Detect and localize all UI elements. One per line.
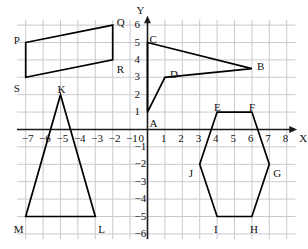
y-axis-arrowhead bbox=[144, 16, 151, 24]
y-tick-label-1: 1 bbox=[135, 106, 141, 117]
x-tick-label-2: 2 bbox=[178, 133, 184, 144]
y-tick-label-3: 3 bbox=[135, 71, 141, 82]
x-tick-label-4: 4 bbox=[213, 133, 219, 144]
vertex-label-r: R bbox=[117, 64, 124, 75]
coordinate-plane-figure: −7−6−5−4−3−2−1123456780654321−1−2−3−4−5−… bbox=[0, 0, 308, 249]
x-tick-label--7: −7 bbox=[22, 133, 34, 144]
x-tick-label-1: 1 bbox=[161, 133, 167, 144]
x-tick-label--5: −5 bbox=[57, 133, 69, 144]
x-tick-label--4: −4 bbox=[74, 133, 86, 144]
vertex-label-f: F bbox=[249, 102, 255, 113]
x-axis-name: X bbox=[299, 133, 307, 144]
y-axis-name: Y bbox=[137, 5, 145, 16]
y-tick-label-4: 4 bbox=[135, 54, 141, 65]
y-tick-label-neg3: −3 bbox=[135, 176, 147, 187]
vertex-label-e: E bbox=[214, 102, 221, 113]
vertex-label-b: B bbox=[257, 61, 264, 72]
vertex-label-q: Q bbox=[117, 17, 125, 28]
vertex-label-j: J bbox=[189, 168, 193, 179]
y-tick-label-neg1: −1 bbox=[135, 141, 147, 152]
y-tick-label-neg5: −5 bbox=[135, 211, 147, 222]
vertex-label-s: S bbox=[14, 83, 20, 94]
x-tick-label--3: −3 bbox=[91, 133, 103, 144]
y-tick-label-neg2: −2 bbox=[135, 158, 147, 169]
vertex-label-c: C bbox=[150, 34, 157, 45]
vertex-label-m: M bbox=[14, 224, 24, 235]
vertex-label-g: G bbox=[273, 168, 281, 179]
y-tick-label-2: 2 bbox=[135, 89, 141, 100]
vertex-label-k: K bbox=[58, 84, 66, 95]
vertex-label-h: H bbox=[250, 224, 258, 235]
x-tick-label-6: 6 bbox=[248, 133, 254, 144]
x-tick-label-8: 8 bbox=[283, 133, 289, 144]
x-tick-label--6: −6 bbox=[39, 133, 51, 144]
x-tick-label-7: 7 bbox=[265, 133, 271, 144]
y-tick-label-neg6: −6 bbox=[135, 228, 147, 239]
y-tick-label-5: 5 bbox=[135, 37, 141, 48]
x-tick-label-5: 5 bbox=[231, 133, 237, 144]
vertex-label-a: A bbox=[150, 118, 158, 129]
x-tick-label-3: 3 bbox=[196, 133, 202, 144]
parallelogram-pqrs bbox=[26, 25, 113, 77]
vertex-label-l: L bbox=[98, 224, 105, 235]
x-axis-arrowhead bbox=[289, 126, 297, 133]
y-tick-label-neg4: −4 bbox=[135, 193, 147, 204]
vertex-label-d: D bbox=[170, 69, 178, 80]
x-tick-label--2: −2 bbox=[109, 133, 121, 144]
vertex-label-p: P bbox=[14, 35, 20, 46]
vertex-label-i: I bbox=[214, 224, 218, 235]
y-tick-label-6: 6 bbox=[135, 19, 141, 30]
